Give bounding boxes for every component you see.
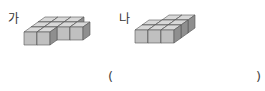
answer-close-paren: ) <box>256 70 261 83</box>
answer-open-paren: ( <box>108 70 113 83</box>
figure-b-cubes <box>135 15 195 43</box>
answer-blank[interactable] <box>118 70 248 84</box>
figure-a-cubes <box>24 17 90 45</box>
